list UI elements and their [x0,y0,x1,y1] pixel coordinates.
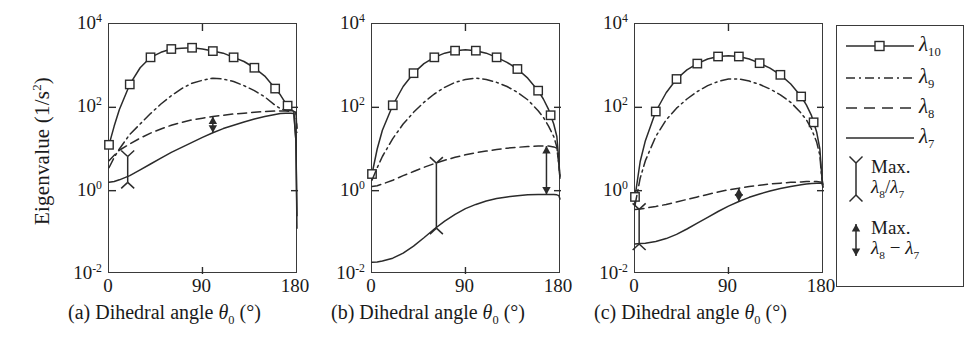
legend-double-arrow [845,218,871,262]
series-marker-square [283,101,291,109]
y-tick-base: 10 [603,12,622,33]
legend-label-lambda-10: λ10 [919,34,941,59]
y-tick-exponent: 2 [96,95,102,108]
legend-line-sample-solid-square-line [843,35,917,57]
lambda-glyph-a: λ [871,237,879,258]
series-marker-square [126,80,134,88]
annotation-operator: − [885,237,905,258]
theta-symbol: θ [218,301,228,323]
y-tick-label--2: 10-2 [313,262,365,284]
lambda-subscript: 7 [928,137,934,151]
y-tick-exponent: 0 [359,178,365,191]
y-tick-exponent: 0 [96,178,102,191]
legend-line-sample-dash-dot-line [843,67,917,89]
x-tick-label-0: 0 [629,275,639,297]
panel-tag: (b) [331,301,359,323]
legend-box: λ10λ9λ8λ7Max.λ8/λ7Max.λ8 − λ7 [836,25,964,287]
x-axis-title: Dihedral angle [359,301,482,323]
annotation-line-2: λ8 − λ7 [871,238,919,261]
y-tick-exponent: 4 [359,12,365,25]
y-tick-base: 10 [340,12,359,33]
y-tick-label-4: 104 [576,12,628,34]
y-tick-base: 10 [77,179,96,200]
annotation-double-arrow [209,117,217,133]
x-tick-label-180: 180 [807,275,836,297]
annotation-double-arrow [735,188,743,201]
series-marker-square [209,47,217,55]
legend-annotation-y-bar-marker[interactable]: Max.λ8/λ7 [845,157,911,201]
series-marker-square [472,46,480,54]
theta-symbol: θ [483,301,493,323]
series-marker-square [797,92,805,100]
series-marker-square [513,65,521,73]
y-tick-label-2: 102 [576,95,628,117]
series-marker-square [271,84,279,92]
y-tick-base: 10 [73,262,92,283]
plot-svg [109,24,298,274]
annotation-line-2: λ8/λ7 [871,177,911,200]
y-axis-title: Eigenvalue (1/s2) [29,21,55,281]
panel-tag: (c) [594,301,621,323]
series-marker-square [546,111,554,119]
y-tick-base: 10 [599,262,618,283]
annotation-y-bar-marker [430,157,443,234]
plot-svg [635,24,824,274]
panel-tag: (a) [68,301,95,323]
lambda-subscript: 8 [928,107,934,121]
y-tick-label-4: 104 [313,12,365,34]
series-marker-square [652,107,660,115]
legend-entry-10[interactable]: λ10 [843,34,941,59]
x-axis-unit: (°) [499,301,525,323]
series-marker-square [167,45,175,53]
legend-label-lambda-8: λ8 [919,96,934,121]
lambda-glyph: λ [919,124,928,148]
legend-entry-9[interactable]: λ9 [843,66,934,91]
series-marker-square [229,53,237,61]
lambda-glyph: λ [919,32,928,56]
lambda-glyph-a: λ [871,176,879,197]
series-line-λ8 [372,146,560,186]
legend-label-lambda-7: λ7 [919,126,934,151]
series-line-λ7 [635,183,823,244]
legend-entry-8[interactable]: λ8 [843,96,934,121]
series-marker-square [250,64,258,72]
y-tick-base: 10 [603,179,622,200]
y-tick-exponent: -2 [92,262,102,275]
y-tick-label-2: 102 [50,95,102,117]
series-marker-square [714,52,722,60]
x-tick-label-180: 180 [544,275,573,297]
series-marker-square [492,53,500,61]
legend-square-marker [875,42,884,51]
plot-svg [372,24,561,274]
y-tick-base: 10 [336,262,355,283]
y-tick-label--2: 10-2 [50,262,102,284]
series-line-λ9 [109,78,297,168]
y-tick-exponent: 0 [622,178,628,191]
x-tick-label-0: 0 [366,275,376,297]
x-tick-label-90: 90 [455,275,474,297]
y-tick-base: 10 [340,95,359,116]
series-line-λ10 [109,48,297,216]
series-marker-square [534,86,542,94]
series-marker-square [776,71,784,79]
y-tick-exponent: 4 [96,12,102,25]
series-line-λ8 [109,111,297,161]
y-tick-exponent: 2 [622,95,628,108]
legend-annotation-double-arrow[interactable]: Max.λ8 − λ7 [845,218,919,262]
annotation-y-bar-marker [121,151,134,189]
panel-caption-c: (c) Dihedral angle θ0 (°) [594,301,787,328]
y-tick-exponent: 2 [359,95,365,108]
panel-caption-b: (b) Dihedral angle θ0 (°) [331,301,525,328]
panel-caption-a: (a) Dihedral angle θ0 (°) [68,301,261,328]
lambda-glyph: λ [919,94,928,118]
annotation-double-arrow [542,146,550,194]
x-axis-title: Dihedral angle [95,301,218,323]
legend-entry-7[interactable]: λ7 [843,126,934,151]
y-tick-exponent: 4 [622,12,628,25]
series-marker-square [755,59,763,67]
lambda-glyph: λ [919,64,928,88]
legend-line-sample-solid-line [843,127,917,149]
y-tick-label-0: 100 [576,178,628,200]
y-tick-base: 10 [340,179,359,200]
lambda-b-subscript: 7 [913,249,919,261]
